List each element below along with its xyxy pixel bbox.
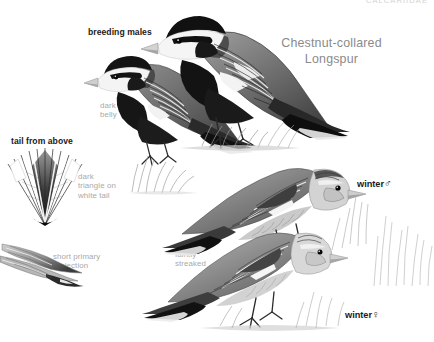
figure-winter-female	[160, 208, 370, 338]
figure-tail-fan	[2, 148, 88, 226]
figure-grass-tuft-right	[372, 180, 434, 290]
label-tail-from-above: tail from above	[11, 136, 73, 146]
figure-folded-wing	[0, 240, 98, 292]
figure-breeding-male-rear	[150, 6, 350, 166]
family-heading: CALCARIIDAE	[300, 0, 428, 6]
field-guide-plate: CALCARIIDAE Chestnut-collared Longspur b…	[0, 0, 434, 342]
female-symbol-icon: ♀	[372, 308, 380, 320]
figure-grass-tuft-left	[128, 150, 198, 195]
label-breeding-males: breeding males	[88, 27, 152, 37]
